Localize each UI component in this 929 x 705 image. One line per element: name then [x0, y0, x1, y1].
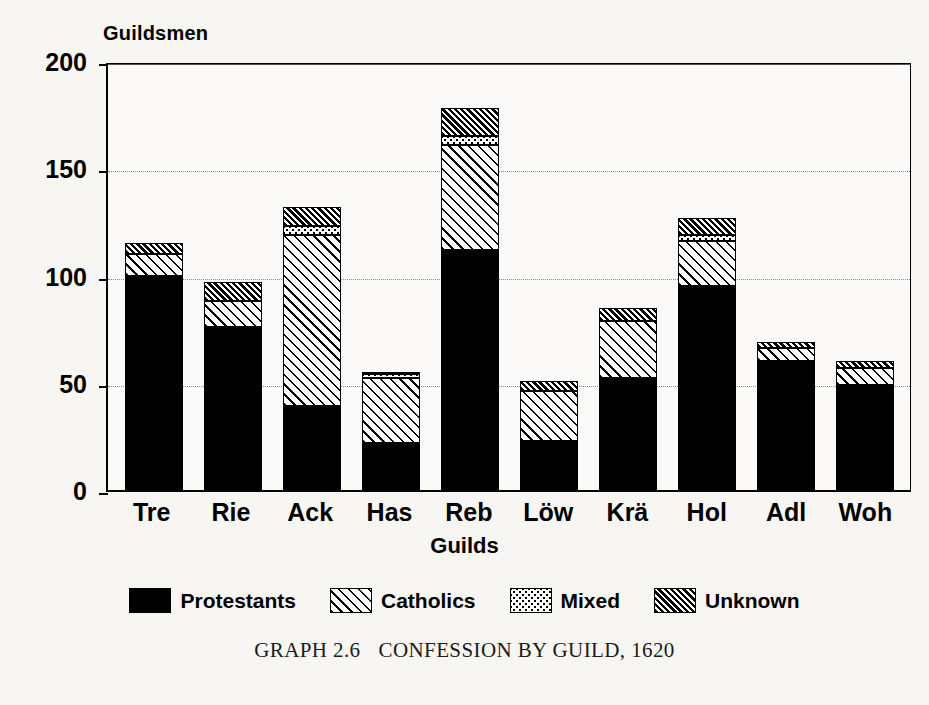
bar-segment-catholics: [678, 241, 736, 286]
bar-segment-catholics: [520, 391, 578, 440]
bar-segment-unknown: [441, 108, 499, 136]
x-tick-label-ack: Ack: [281, 498, 339, 528]
dense-hatch-swatch: [654, 588, 696, 613]
bar-segment-catholics: [757, 348, 815, 361]
bar-reb[interactable]: [441, 64, 499, 490]
caption-text: CONFESSION BY GUILD, 1620: [379, 638, 675, 662]
bar-segment-unknown: [204, 282, 262, 301]
dotted-swatch: [510, 588, 552, 613]
bar-segment-mixed: [283, 226, 341, 235]
bar-hol[interactable]: [678, 64, 736, 490]
legend-item-protestants[interactable]: Protestants: [129, 588, 296, 613]
bar-segment-protestants: [836, 385, 894, 490]
bar-segment-protestants: [204, 327, 262, 490]
y-tick-200: [99, 64, 108, 66]
bar-segment-unknown: [283, 207, 341, 226]
y-tick-100: [99, 279, 108, 281]
bar-segment-unknown: [599, 308, 657, 321]
bar-segment-protestants: [520, 441, 578, 490]
x-tick-label-löw: Löw: [519, 498, 577, 528]
legend-item-catholics[interactable]: Catholics: [330, 588, 476, 613]
chart-caption: GRAPH 2.6CONFESSION BY GUILD, 1620: [0, 638, 929, 663]
bar-segment-catholics: [441, 145, 499, 250]
bar-segment-protestants: [757, 361, 815, 490]
x-tick-label-krä: Krä: [598, 498, 656, 528]
bar-segment-catholics: [362, 378, 420, 442]
x-tick-label-tre: Tre: [123, 498, 181, 528]
x-axis-title: Guilds: [0, 533, 929, 559]
y-tick-label-50: 50: [17, 372, 87, 397]
y-tick-0: [99, 493, 108, 495]
bar-segment-unknown: [678, 218, 736, 235]
y-tick-label-100: 100: [17, 265, 87, 290]
bar-segment-protestants: [678, 286, 736, 490]
bar-ack[interactable]: [283, 64, 341, 490]
bar-rie[interactable]: [204, 64, 262, 490]
x-tick-label-hol: Hol: [678, 498, 736, 528]
bar-segment-protestants: [125, 276, 183, 491]
bar-löw[interactable]: [520, 64, 578, 490]
x-tick-label-rie: Rie: [202, 498, 260, 528]
legend-label: Mixed: [561, 589, 621, 613]
bar-segment-protestants: [599, 378, 657, 490]
bar-woh[interactable]: [836, 64, 894, 490]
y-tick-150: [99, 171, 108, 173]
bar-segment-unknown: [125, 243, 183, 254]
caption-number: GRAPH 2.6: [254, 638, 360, 662]
plot-area: [106, 63, 911, 492]
legend-label: Catholics: [381, 589, 476, 613]
bar-krä[interactable]: [599, 64, 657, 490]
y-axis-title: Guildsmen: [103, 22, 208, 45]
y-tick-50: [99, 386, 108, 388]
legend-label: Unknown: [705, 589, 800, 613]
legend-label: Protestants: [180, 589, 296, 613]
bar-has[interactable]: [362, 64, 420, 490]
x-axis-tick-labels: TreRieAckHasRebLöwKräHolAdlWoh: [106, 498, 911, 528]
y-tick-label-0: 0: [17, 479, 87, 504]
x-tick-label-adl: Adl: [757, 498, 815, 528]
legend-item-unknown[interactable]: Unknown: [654, 588, 800, 613]
bar-segment-catholics: [836, 368, 894, 385]
bar-segment-protestants: [441, 250, 499, 490]
bar-segment-catholics: [599, 321, 657, 379]
y-tick-label-200: 200: [17, 50, 87, 75]
bar-segment-protestants: [362, 443, 420, 490]
chart-figure: Guildsmen 050100150200 TreRieAckHasRebLö…: [0, 0, 929, 705]
x-tick-label-woh: Woh: [836, 498, 894, 528]
bar-segment-mixed: [441, 136, 499, 145]
legend-item-mixed[interactable]: Mixed: [510, 588, 621, 613]
bar-segment-unknown: [520, 381, 578, 392]
bar-segment-catholics: [204, 301, 262, 327]
y-tick-label-150: 150: [17, 157, 87, 182]
bar-segment-protestants: [283, 406, 341, 490]
chart-legend: ProtestantsCatholicsMixedUnknown: [0, 588, 929, 613]
x-tick-label-reb: Reb: [440, 498, 498, 528]
bar-group: [108, 64, 910, 490]
bar-tre[interactable]: [125, 64, 183, 490]
x-tick-label-has: Has: [361, 498, 419, 528]
diagonal-hatch-swatch: [330, 588, 372, 613]
solid-black-swatch: [129, 588, 171, 613]
bar-segment-catholics: [283, 235, 341, 407]
bar-segment-catholics: [125, 254, 183, 275]
bar-adl[interactable]: [757, 64, 815, 490]
